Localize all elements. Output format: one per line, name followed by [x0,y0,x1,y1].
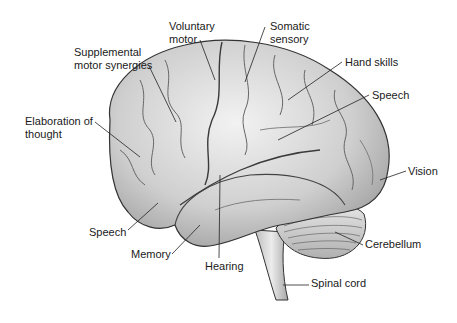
label-line: Hearing [205,260,244,273]
label-elaboration-of-thought: Elaboration of thought [25,115,93,141]
label-speech-lower: Speech [89,226,126,239]
label-line: motor synergies [74,59,152,72]
label-line: Vision [408,165,438,178]
label-speech-upper: Speech [372,89,409,102]
label-memory: Memory [131,248,171,261]
label-line: Spinal cord [311,277,366,290]
label-spinal-cord: Spinal cord [311,277,366,290]
label-line: Speech [89,226,126,239]
label-line: motor [169,33,215,46]
label-voluntary-motor: Voluntary motor [169,20,215,46]
label-line: Supplemental [74,46,152,59]
brain-illustration [0,0,457,323]
label-line: Speech [372,89,409,102]
label-cerebellum: Cerebellum [365,238,421,251]
label-line: thought [25,128,93,141]
label-line: Elaboration of [25,115,93,128]
label-line: Voluntary [169,20,215,33]
label-hearing: Hearing [205,260,244,273]
brain-diagram: Voluntary motor Somatic sensory Suppleme… [0,0,457,323]
label-line: Hand skills [345,56,398,69]
label-hand-skills: Hand skills [345,56,398,69]
label-somatic-sensory: Somatic sensory [270,20,310,46]
label-line: Somatic [270,20,310,33]
label-supplemental-motor-synergies: Supplemental motor synergies [74,46,152,72]
label-vision: Vision [408,165,438,178]
label-line: Cerebellum [365,238,421,251]
label-line: Memory [131,248,171,261]
label-line: sensory [270,33,310,46]
